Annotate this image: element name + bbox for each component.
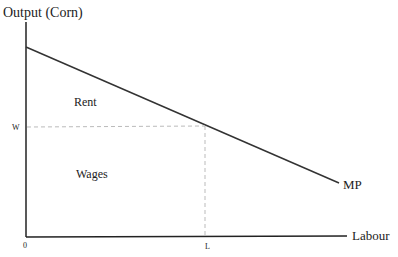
- y-axis-label: Output (Corn): [3, 6, 83, 20]
- mp-curve: [26, 47, 339, 183]
- rent-label: Rent: [74, 96, 97, 108]
- wage-tick-label: W: [12, 124, 20, 132]
- wages-label: Wages: [76, 168, 108, 180]
- wage-dashed-line: [27, 126, 205, 127]
- diagram-canvas: [0, 0, 398, 257]
- x-axis-label: Labour: [352, 229, 390, 242]
- x-axis: [26, 236, 347, 237]
- mp-label: MP: [343, 178, 362, 191]
- labour-tick-label: L: [205, 243, 210, 251]
- origin-label: 0: [23, 242, 27, 250]
